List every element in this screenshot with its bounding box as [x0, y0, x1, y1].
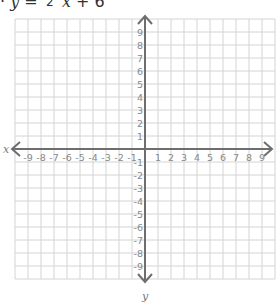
- y-tick-label: -9: [134, 261, 143, 272]
- x-tick-label: -2: [114, 152, 123, 163]
- x-tick-label: 2: [168, 152, 174, 163]
- x-axis-label: x: [3, 143, 10, 156]
- y-tick-label: -6: [134, 222, 143, 233]
- x-tick-label: 1: [155, 152, 161, 163]
- y-tick-label: 2: [137, 118, 143, 129]
- y-tick-label: 5: [137, 79, 143, 90]
- y-tick-label: 1: [137, 131, 143, 142]
- coordinate-plane: -9-8-7-6-5-4-3-2-1123456789 987654321-1-…: [0, 0, 276, 306]
- y-tick-label: -2: [134, 170, 143, 181]
- y-tick-label: -1: [134, 157, 143, 168]
- y-tick-label: 8: [137, 40, 143, 51]
- x-tick-label: -7: [49, 152, 58, 163]
- y-tick-label: -8: [134, 248, 143, 259]
- y-tick-label: -3: [134, 183, 143, 194]
- x-tick-label: 6: [220, 152, 226, 163]
- x-tick-label: -5: [75, 152, 84, 163]
- x-tick-label: -3: [101, 152, 110, 163]
- x-tick-label: 8: [246, 152, 252, 163]
- x-tick-label: -8: [36, 152, 45, 163]
- y-tick-label: 7: [137, 53, 143, 64]
- y-tick-label: -4: [134, 196, 143, 207]
- x-tick-label: 4: [194, 152, 200, 163]
- x-tick-label: 7: [233, 152, 239, 163]
- y-axis-label: y: [141, 290, 149, 303]
- y-tick-label: 4: [137, 92, 143, 103]
- y-tick-label: 3: [137, 105, 143, 116]
- y-tick-label: 9: [137, 27, 143, 38]
- y-tick-label: -5: [134, 209, 143, 220]
- x-tick-label: 9: [259, 152, 265, 163]
- x-tick-label: 3: [181, 152, 187, 163]
- y-tick-label: -7: [134, 235, 143, 246]
- x-tick-label: -4: [88, 152, 97, 163]
- x-tick-label: -9: [23, 152, 32, 163]
- y-tick-label: 6: [137, 66, 143, 77]
- x-tick-label: 5: [207, 152, 213, 163]
- x-tick-label: -6: [62, 152, 71, 163]
